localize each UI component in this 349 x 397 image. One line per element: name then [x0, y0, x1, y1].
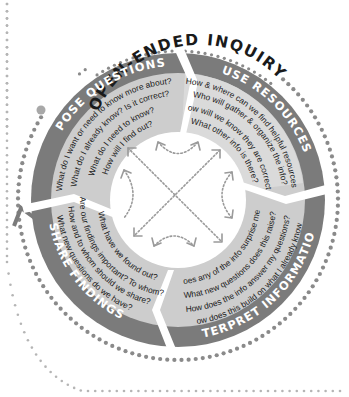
dot [321, 266, 325, 270]
dot [179, 358, 183, 362]
dot [260, 334, 264, 338]
dot [331, 239, 335, 243]
dot [6, 118, 9, 121]
dot [6, 147, 9, 150]
dot [20, 323, 23, 326]
dot [203, 52, 206, 55]
dot [335, 211, 339, 215]
dot [6, 140, 9, 143]
dot [6, 154, 9, 157]
dot [130, 351, 134, 355]
dot [269, 82, 272, 85]
dot [323, 134, 327, 138]
dot [248, 341, 252, 345]
dot [281, 390, 284, 393]
dot [29, 134, 33, 138]
dot [49, 296, 53, 300]
dot [165, 358, 169, 362]
dot [314, 278, 318, 282]
dot [26, 141, 30, 145]
dot [311, 284, 315, 288]
dot [110, 344, 114, 348]
dot [116, 390, 119, 393]
dot [278, 321, 282, 325]
dot [107, 67, 110, 70]
dot [224, 390, 227, 393]
dot [309, 109, 313, 113]
dot [335, 182, 339, 186]
dot [6, 89, 9, 92]
dot [16, 189, 20, 193]
dot [291, 87, 295, 91]
dot [6, 17, 9, 20]
dot [324, 259, 328, 263]
dot [9, 283, 12, 286]
dot [252, 390, 255, 393]
dot [41, 284, 45, 288]
dot [80, 326, 84, 330]
dot [27, 339, 30, 342]
dot [303, 390, 306, 393]
dot [221, 351, 225, 355]
dot [6, 233, 9, 236]
dot [302, 296, 306, 300]
dot [6, 75, 9, 78]
dot [25, 252, 29, 256]
dot [6, 111, 9, 114]
dot [6, 82, 9, 85]
dot [325, 141, 329, 145]
dot [44, 365, 47, 368]
dot [336, 204, 340, 208]
dot [197, 51, 200, 54]
dot [84, 68, 87, 71]
dot [55, 375, 58, 378]
dot [266, 330, 270, 334]
dot [202, 390, 205, 393]
dot [238, 390, 241, 393]
dot [6, 190, 9, 193]
dot [97, 337, 101, 341]
dot [123, 390, 126, 393]
dot [32, 128, 36, 132]
dot [22, 154, 26, 158]
dot [67, 383, 70, 386]
dot [7, 272, 10, 275]
dot [78, 72, 81, 75]
dot [117, 347, 121, 351]
dot [229, 59, 232, 62]
dot [137, 353, 141, 357]
dot [187, 358, 191, 362]
dot [6, 3, 9, 6]
dot [6, 32, 9, 35]
dot [6, 46, 9, 49]
dot [6, 212, 9, 215]
dot [158, 357, 162, 361]
dot [241, 344, 245, 348]
dot [6, 10, 9, 13]
dot [18, 175, 22, 179]
dot [332, 390, 335, 393]
dot [54, 301, 58, 305]
dot [326, 252, 330, 256]
dot [305, 103, 309, 107]
dot [316, 121, 320, 125]
dot [336, 197, 340, 201]
dot [329, 246, 333, 250]
dot [317, 390, 320, 393]
dot [94, 390, 97, 393]
dot [231, 390, 234, 393]
dot [195, 390, 198, 393]
dot [6, 261, 9, 264]
dot [286, 82, 290, 86]
dot [254, 337, 258, 341]
dot [63, 312, 67, 316]
dot [61, 380, 64, 383]
dot [20, 232, 24, 236]
dot [19, 168, 23, 172]
dot [59, 307, 63, 311]
dot [6, 240, 9, 243]
dot [6, 104, 9, 107]
dot [108, 390, 111, 393]
dot [31, 265, 35, 269]
dot [258, 74, 261, 77]
